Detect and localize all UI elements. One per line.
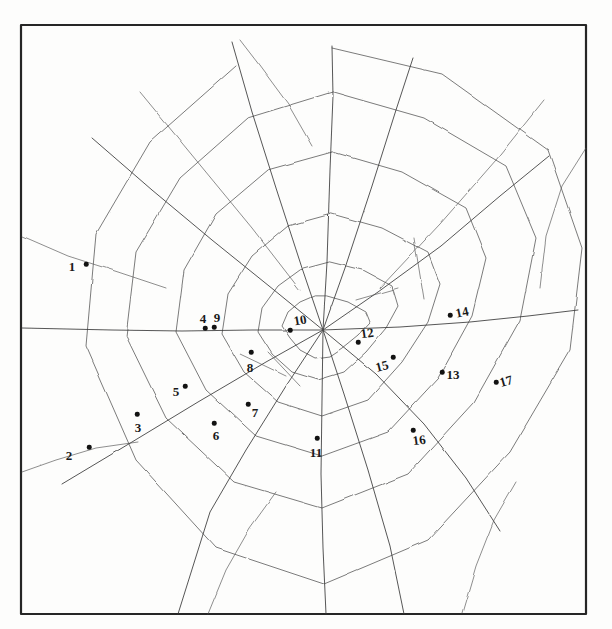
stray-right-edge [540,148,586,288]
radial-up-slight-r [323,58,413,330]
radial-down-right [323,330,404,614]
spider-web-figure: 1234567891011121314151617 [0,0,612,629]
spiral-ring-3 [222,214,440,416]
web-spiral-rings [86,48,582,584]
stray-cross-2 [380,100,544,288]
stray-bottom-right [462,482,516,614]
stray-short-b [268,352,300,386]
border-rectangle [21,25,586,614]
radial-right [323,310,578,330]
spiral-ring-4 [176,152,486,456]
stray-short-c [356,288,398,300]
radial-down [321,330,326,614]
radial-lower-left [62,330,323,484]
radial-upper-left [92,138,323,330]
spiral-ring-2 [258,262,398,380]
web-stray-strands [22,40,586,614]
radial-lower-right [323,330,500,531]
stray-top-left [240,40,312,146]
stray-cross-1 [140,92,300,290]
web-drawing-canvas [0,0,612,629]
stray-bottom [208,492,276,614]
radial-left [22,328,323,331]
stray-left-edge [22,236,166,288]
radial-upper-right [323,156,549,330]
radial-down-left [178,330,323,614]
stray-lower-left [22,442,138,472]
radial-up [323,46,333,330]
spiral-ring-1 [282,296,370,358]
web-radial-threads [22,42,578,614]
